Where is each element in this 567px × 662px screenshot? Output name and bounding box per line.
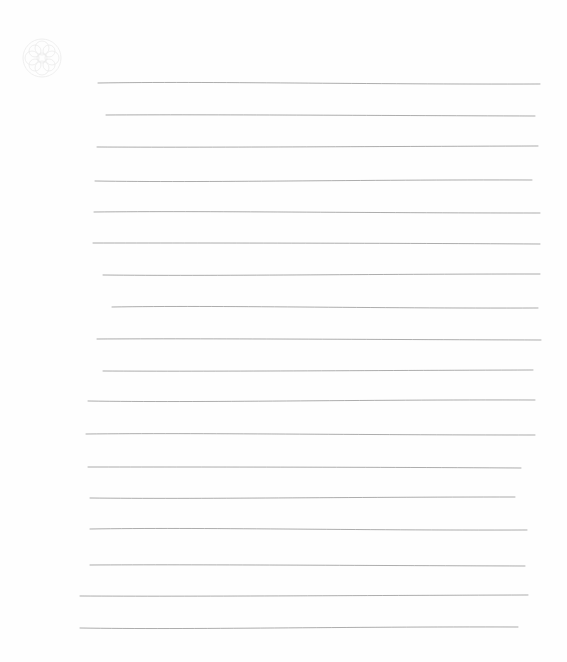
ruled-line: [112, 306, 538, 308]
ruled-line: [98, 82, 540, 84]
ruled-line: [80, 595, 528, 596]
ruled-line: [80, 627, 518, 629]
ruled-line: [93, 243, 540, 244]
ruled-line: [88, 467, 521, 468]
ruled-line: [90, 528, 527, 530]
ruled-line: [94, 212, 540, 213]
ruled-line: [86, 434, 535, 435]
ruled-lines: [0, 0, 567, 662]
ruled-line: [103, 370, 533, 371]
paper-sheet: [0, 0, 567, 662]
ruled-line: [97, 339, 541, 340]
ruled-line: [106, 115, 535, 116]
ruled-line: [97, 146, 538, 147]
ruled-line: [88, 400, 535, 402]
ruled-line: [95, 180, 532, 182]
ruled-line: [90, 565, 525, 566]
ruled-line: [90, 497, 515, 498]
ruled-line: [103, 274, 540, 275]
